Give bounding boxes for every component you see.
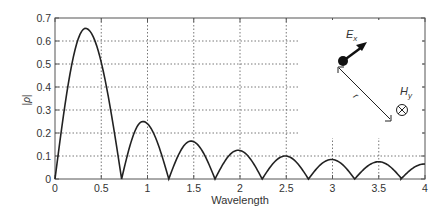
- x-tick-label: 4: [422, 182, 428, 194]
- x-tick-label: 2: [237, 182, 243, 194]
- x-tick-labels: 00.511.522.533.54: [52, 182, 428, 194]
- x-tick-label: 1: [145, 182, 151, 194]
- y-tick-label: 0.7: [36, 12, 51, 24]
- y-tick-label: 0.4: [36, 81, 51, 93]
- reflection-coefficient-chart: 00.511.522.533.54 00.10.20.30.40.50.60.7…: [0, 0, 440, 218]
- x-tick-label: 3.5: [371, 182, 386, 194]
- x-axis-label: Wavelength: [211, 194, 269, 206]
- y-tick-label: 0.1: [36, 150, 51, 162]
- y-tick-labels: 00.10.20.30.40.50.60.7: [36, 12, 51, 185]
- inset-background: [300, 20, 422, 138]
- y-tick-label: 0.5: [36, 58, 51, 70]
- x-tick-label: 2.5: [279, 182, 294, 194]
- x-tick-label: 3: [330, 182, 336, 194]
- x-tick-label: 0: [52, 182, 58, 194]
- y-tick-label: 0.6: [36, 35, 51, 47]
- y-tick-label: 0.2: [36, 127, 51, 139]
- y-tick-label: 0: [45, 173, 51, 185]
- y-tick-label: 0.3: [36, 104, 51, 116]
- x-tick-label: 1.5: [186, 182, 201, 194]
- x-tick-label: 0.5: [94, 182, 109, 194]
- y-axis-label: |ρ|: [21, 95, 32, 106]
